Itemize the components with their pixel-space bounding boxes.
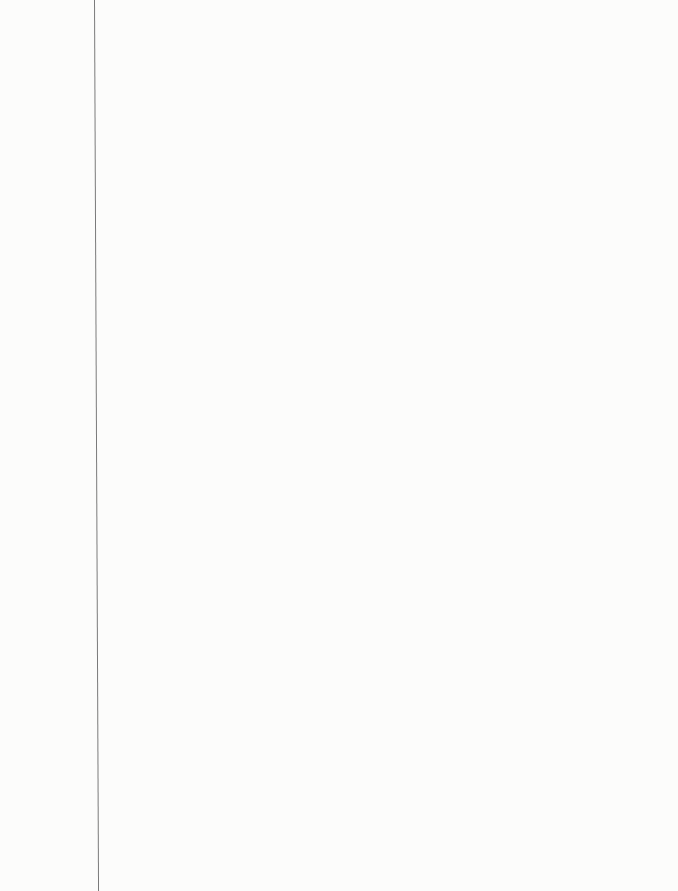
margin-line	[94, 0, 99, 891]
lined-paper	[0, 0, 678, 891]
